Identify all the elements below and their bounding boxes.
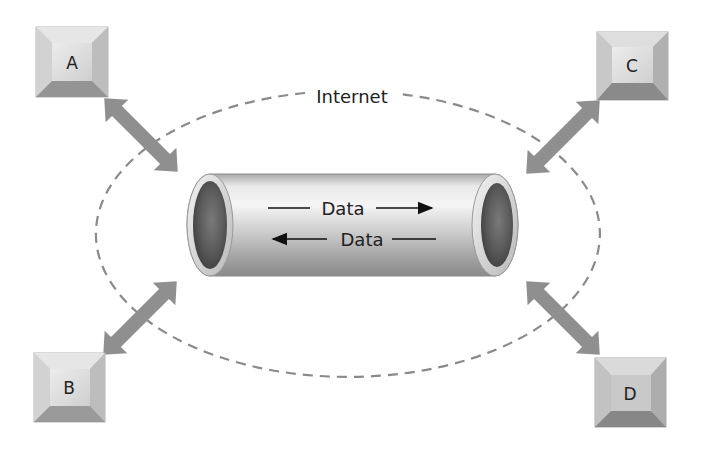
data-tunnel-pipe xyxy=(187,174,518,276)
node-a[interactable]: A xyxy=(36,27,108,97)
node-b-label: B xyxy=(63,378,75,398)
double-arrow-c xyxy=(515,89,611,185)
internet-tunnel-diagram: Internet Data Data xyxy=(0,0,708,450)
double-arrow-d xyxy=(515,270,611,366)
node-c-label: C xyxy=(626,56,638,76)
node-c[interactable]: C xyxy=(597,32,668,100)
node-d[interactable]: D xyxy=(595,358,666,427)
node-a-label: A xyxy=(66,53,78,73)
data-label-reverse: Data xyxy=(341,229,384,250)
node-b[interactable]: B xyxy=(34,353,105,422)
data-label-forward: Data xyxy=(322,198,365,219)
double-arrow-a xyxy=(93,87,189,183)
node-d-label: D xyxy=(623,384,636,404)
internet-label: Internet xyxy=(316,86,387,107)
double-arrow-b xyxy=(92,270,188,366)
